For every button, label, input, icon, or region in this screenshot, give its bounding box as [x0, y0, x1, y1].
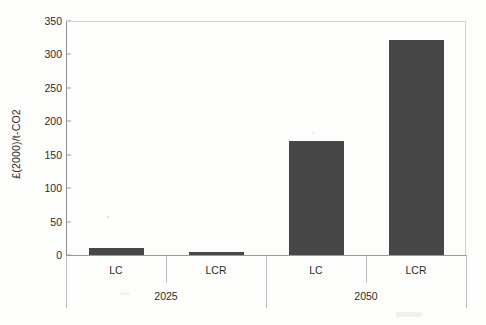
bar: [389, 40, 444, 255]
x-axis-group-separator: [466, 256, 467, 308]
scan-speckle: [396, 312, 422, 317]
scan-speckle: [107, 216, 109, 218]
x-axis-group-label: 2025: [66, 283, 266, 308]
x-axis-category-label: LC: [266, 256, 366, 283]
x-axis-group-separator: [66, 256, 67, 308]
y-axis-tick-label: 350: [26, 15, 62, 27]
x-axis-group-label: 2050: [266, 283, 466, 308]
bar: [289, 141, 344, 255]
scan-speckle: [312, 132, 315, 134]
x-axis-category-label: LCR: [166, 256, 266, 283]
x-axis-group-separator: [266, 256, 267, 308]
x-axis-separator: [166, 256, 167, 283]
x-axis-separator: [366, 256, 367, 283]
y-axis-tick-label: 0: [26, 249, 62, 261]
y-axis-tick-label: 250: [26, 82, 62, 94]
y-axis-tick-label: 50: [26, 216, 62, 228]
y-axis-tick-label: 150: [26, 149, 62, 161]
bar: [89, 248, 144, 255]
y-axis-tick-label: 300: [26, 48, 62, 60]
scan-speckle: [120, 292, 130, 295]
bar: [189, 252, 244, 255]
bar-series: [66, 21, 466, 255]
x-axis-category-label: LCR: [366, 256, 466, 283]
bar-chart: £(2000)/t-CO2 050100150200250300350 LCLC…: [0, 0, 486, 325]
y-axis-tick-label: 100: [26, 182, 62, 194]
x-axis-group-labels: 20252050: [66, 283, 467, 308]
y-axis-ticks: 050100150200250300350: [18, 0, 62, 325]
x-axis-category-label: LC: [66, 256, 166, 283]
y-axis-tick-label: 200: [26, 115, 62, 127]
